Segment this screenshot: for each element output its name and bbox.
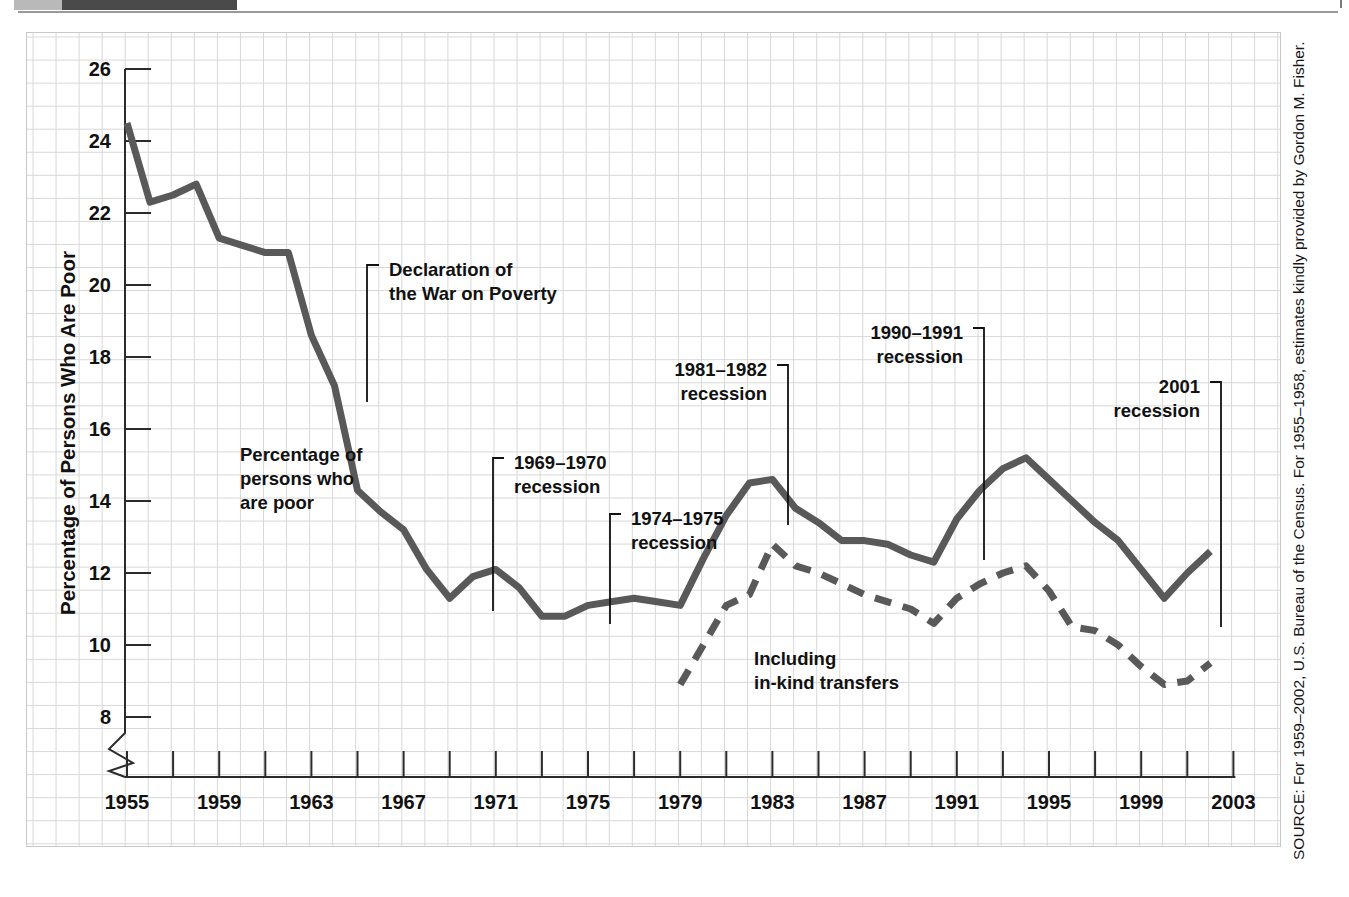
x-tick-label: 2003 xyxy=(1211,791,1256,813)
page-header-strip xyxy=(0,0,1349,14)
annotation-series-label-in-kind: Includingin-kind transfers xyxy=(754,648,899,693)
annotation-leader-line xyxy=(610,514,621,624)
x-tick-label: 1971 xyxy=(474,791,519,813)
x-tick-label: 1983 xyxy=(750,791,795,813)
y-axis-title: Percentage of Persons Who Are Poor xyxy=(56,251,79,615)
x-tick-label: 1979 xyxy=(658,791,703,813)
x-tick-label: 1967 xyxy=(381,791,426,813)
header-swatch-dark xyxy=(62,0,237,10)
header-rule-primary xyxy=(18,11,1338,13)
annotation-leader-line xyxy=(367,265,379,402)
poverty-rate-line-chart: 8101214161820222426 19551959196319671971… xyxy=(27,33,1280,846)
x-tick-label: 1955 xyxy=(105,791,150,813)
y-tick-labels: 8101214161820222426 xyxy=(89,58,112,728)
x-tick-label: 1995 xyxy=(1027,791,1072,813)
header-swatch-light xyxy=(14,0,62,10)
y-tick-label: 14 xyxy=(89,490,112,512)
annotation-leader-line xyxy=(493,458,504,611)
y-tick-label: 12 xyxy=(89,562,111,584)
y-tick-label: 8 xyxy=(100,706,111,728)
annotation-recession-1990-1991: 1990–1991recession xyxy=(870,322,963,367)
data-series-layer xyxy=(127,123,1210,685)
x-tick-label: 1959 xyxy=(197,791,242,813)
x-tick-label: 1999 xyxy=(1119,791,1164,813)
source-note: SOURCE: For 1959–2002, U.S. Bureau of th… xyxy=(1286,0,1342,30)
annotation-layer: Declaration ofthe War on PovertyPercenta… xyxy=(240,259,1221,693)
source-note-text: SOURCE: For 1959–2002, U.S. Bureau of th… xyxy=(1286,30,1311,860)
annotation-recession-1981-1982: 1981–1982recession xyxy=(674,359,767,404)
chart-panel: 8101214161820222426 19551959196319671971… xyxy=(26,32,1281,847)
y-tick-label: 26 xyxy=(89,58,111,80)
annotation-recession-1974-1975: 1974–1975recession xyxy=(631,508,724,553)
x-tick-label: 1963 xyxy=(289,791,334,813)
annotation-series-label-poor: Percentage ofpersons whoare poor xyxy=(240,444,363,513)
y-tick-label: 20 xyxy=(89,274,111,296)
y-tick-label: 24 xyxy=(89,130,112,152)
x-tick-label: 1987 xyxy=(842,791,887,813)
y-tick-label: 16 xyxy=(89,418,111,440)
figure-page: 8101214161820222426 19551959196319671971… xyxy=(0,0,1349,897)
y-tick-label: 18 xyxy=(89,346,111,368)
y-tick-label: 10 xyxy=(89,634,111,656)
x-tick-label: 1991 xyxy=(935,791,980,813)
x-tick-labels: 1955195919631967197119751979198319871991… xyxy=(105,791,1256,813)
grid-layer xyxy=(27,33,1280,846)
y-tick-label: 22 xyxy=(89,202,111,224)
x-tick-label: 1975 xyxy=(566,791,611,813)
annotation-declaration-war-on-poverty: Declaration ofthe War on Poverty xyxy=(389,259,558,304)
